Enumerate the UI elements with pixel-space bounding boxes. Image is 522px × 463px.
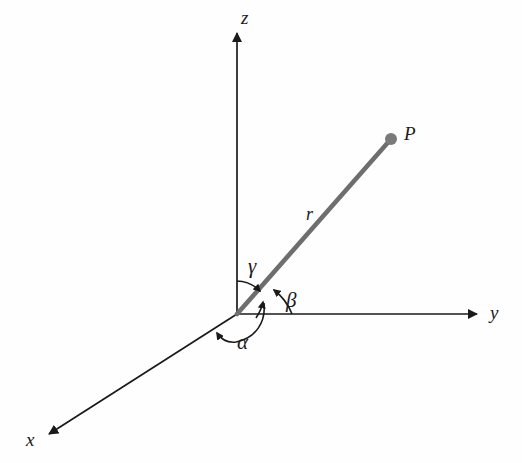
point-p-marker [385, 133, 397, 145]
point-p-label: P [404, 124, 416, 143]
figure-canvas: z y x r P α β γ [0, 0, 522, 463]
direction-angles-diagram [0, 0, 522, 463]
radius-label: r [306, 205, 313, 223]
alpha-arc-ray-head [256, 302, 263, 318]
beta-angle-label: β [286, 290, 296, 311]
radius-ray [237, 139, 391, 314]
gamma-angle-label: γ [248, 256, 256, 277]
y-axis-label: y [490, 303, 498, 322]
x-axis-label: x [26, 430, 34, 449]
alpha-angle-label: α [237, 332, 248, 353]
z-axis-label: z [241, 8, 248, 27]
x-axis-line [49, 314, 237, 434]
